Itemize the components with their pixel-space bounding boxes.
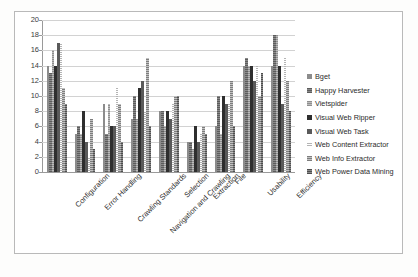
y-tick-mark-0 [39,172,42,173]
chart-container: 02468101214161820 ConfigurationError Han… [14,11,403,254]
y-tick-mark-2 [39,157,42,158]
legend-swatch-icon [307,156,312,161]
y-tick-label-18: 18 [31,31,39,39]
bar [233,126,236,172]
bar-group [183,20,211,172]
x-axis-tick-labels: ConfigurationError HandlingCrawling Stan… [43,172,296,242]
legend-label: Bget [315,73,330,80]
legend-label: Web Power Data Mining [315,168,394,175]
legend-item: Web Power Data Mining [307,165,402,179]
y-tick-mark-4 [39,142,42,143]
chart-legend: BgetHappy HarvesterVietspiderVisual Web … [307,70,402,179]
legend-label: Web Info Extractor [315,155,375,162]
legend-label: Visual Web Task [315,128,369,135]
legend-swatch-icon [307,115,312,120]
bar [149,126,152,172]
y-tick-mark-18 [39,35,42,36]
y-tick-mark-6 [39,126,42,127]
bar [261,73,264,172]
y-tick-mark-12 [39,81,42,82]
legend-item: Visual Web Ripper [307,111,402,125]
y-tick-label-16: 16 [31,47,39,55]
bar-group [127,20,155,172]
legend-label: Happy Harvester [315,87,370,94]
bar-groups [43,20,295,172]
y-tick-label-20: 20 [31,16,39,24]
bar-group [99,20,127,172]
legend-swatch-icon [307,142,312,147]
legend-label: Vietspider [315,100,347,107]
bar-group [155,20,183,172]
y-tick-mark-10 [39,96,42,97]
legend-item: Happy Harvester [307,84,402,98]
bar-group [71,20,99,172]
y-tick-label-12: 12 [31,77,39,85]
legend-swatch-icon [307,88,312,93]
legend-swatch-icon [307,169,312,174]
x-tick-label: Usability [266,172,291,197]
legend-item: Web Content Extractor [307,138,402,152]
legend-item: Vietspider [307,97,402,111]
legend-item: Visual Web Task [307,124,402,138]
legend-label: Web Content Extractor [315,141,389,148]
legend-swatch-icon [307,129,312,134]
bar [93,149,96,172]
bar [177,96,180,172]
bar-group [267,20,295,172]
bar-group [43,20,71,172]
y-tick-mark-8 [39,111,42,112]
legend-swatch-icon [307,74,312,79]
legend-item: Bget [307,70,402,84]
bar [205,134,208,172]
y-tick-mark-16 [39,50,42,51]
legend-item: Web Info Extractor [307,152,402,166]
legend-label: Visual Web Ripper [315,114,375,121]
plot-area: 02468101214161820 [42,20,295,172]
y-tick-mark-20 [39,20,42,21]
y-tick-mark-14 [39,66,42,67]
bar [289,111,292,172]
y-tick-label-14: 14 [31,62,39,70]
y-tick-label-10: 10 [31,92,39,100]
chart-plot-wrapper: 02468101214161820 ConfigurationError Han… [15,12,402,253]
legend-swatch-icon [307,101,312,106]
bar [121,142,124,172]
bar-group [239,20,267,172]
bar-group [211,20,239,172]
bar [65,104,68,172]
